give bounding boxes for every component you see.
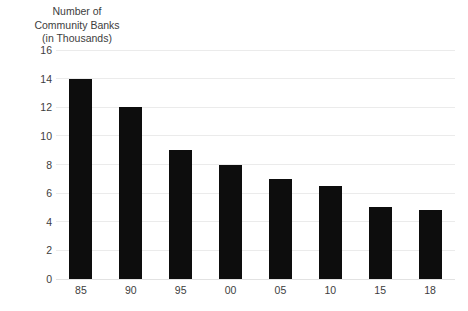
y-axis-tick-label: 10	[6, 131, 52, 142]
y-axis-tick-label: 0	[6, 274, 52, 285]
y-axis-tick-label: 6	[6, 188, 52, 199]
chart-title: Number of Community Banks (in Thousands)	[2, 5, 152, 46]
bar	[419, 210, 442, 279]
bar	[269, 179, 292, 279]
x-axis-tick-label: 15	[357, 284, 403, 296]
x-axis-tick-label: 18	[407, 284, 453, 296]
bar	[319, 186, 342, 279]
x-axis-tick-label: 10	[307, 284, 353, 296]
x-axis-tick-label: 95	[158, 284, 204, 296]
y-axis-tick-label: 2	[6, 245, 52, 256]
x-axis-tick-label: 00	[208, 284, 254, 296]
y-axis-tick-label: 16	[6, 45, 52, 56]
bar	[169, 150, 192, 279]
chart-title-line-3: (in Thousands)	[2, 32, 152, 46]
y-axis-tick-label: 4	[6, 217, 52, 228]
bar	[119, 107, 142, 279]
bars-layer	[56, 50, 455, 279]
y-axis: 0246810121416	[0, 50, 52, 279]
bar-chart: Number of Community Banks (in Thousands)…	[0, 0, 468, 311]
bar	[369, 207, 392, 279]
chart-title-line-1: Number of	[2, 5, 152, 19]
y-axis-tick-label: 12	[6, 102, 52, 113]
chart-title-line-2: Community Banks	[2, 19, 152, 33]
bar	[69, 79, 92, 279]
y-axis-tick-label: 14	[6, 74, 52, 85]
x-axis-tick-label: 85	[58, 284, 104, 296]
x-axis-tick-label: 90	[108, 284, 154, 296]
y-axis-tick-label: 8	[6, 160, 52, 171]
x-axis: 8590950005101518	[56, 284, 455, 304]
x-axis-tick-label: 05	[257, 284, 303, 296]
bar	[219, 165, 242, 280]
